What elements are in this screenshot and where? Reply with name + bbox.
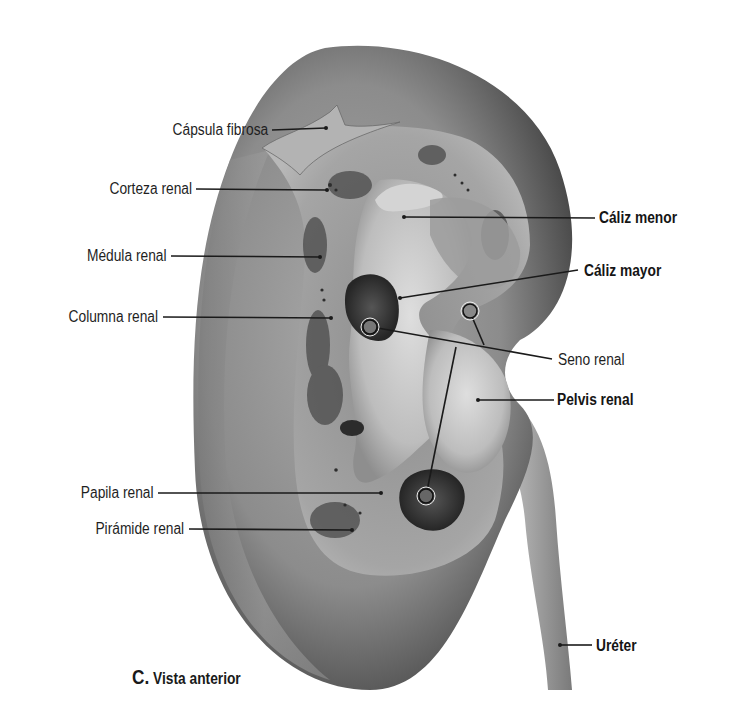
label-caliz-menor: Cáliz menor <box>599 209 677 227</box>
label-seno-renal: Seno renal <box>558 351 625 369</box>
label-columna-renal: Columna renal <box>69 308 158 326</box>
sinus-dark-small <box>340 420 364 436</box>
label-capsula-fibrosa: Cápsula fibrosa <box>172 121 268 139</box>
kidney-anatomy-figure: Cápsula fibrosa Corteza renal Médula ren… <box>0 0 738 728</box>
kidney-illustration <box>0 0 738 728</box>
label-caliz-mayor: Cáliz mayor <box>584 262 661 280</box>
label-medula-renal: Médula renal <box>86 247 166 265</box>
label-papila-renal: Papila renal <box>80 484 153 502</box>
figure-caption: C. Vista anterior <box>132 666 241 689</box>
caption-text: Vista anterior <box>153 670 241 687</box>
label-corteza-renal: Corteza renal <box>109 180 192 198</box>
label-pelvis-renal: Pelvis renal <box>557 391 633 409</box>
label-piramide-renal: Pirámide renal <box>95 520 184 538</box>
caption-letter: C. <box>132 666 149 688</box>
label-ureter: Uréter <box>596 637 637 655</box>
